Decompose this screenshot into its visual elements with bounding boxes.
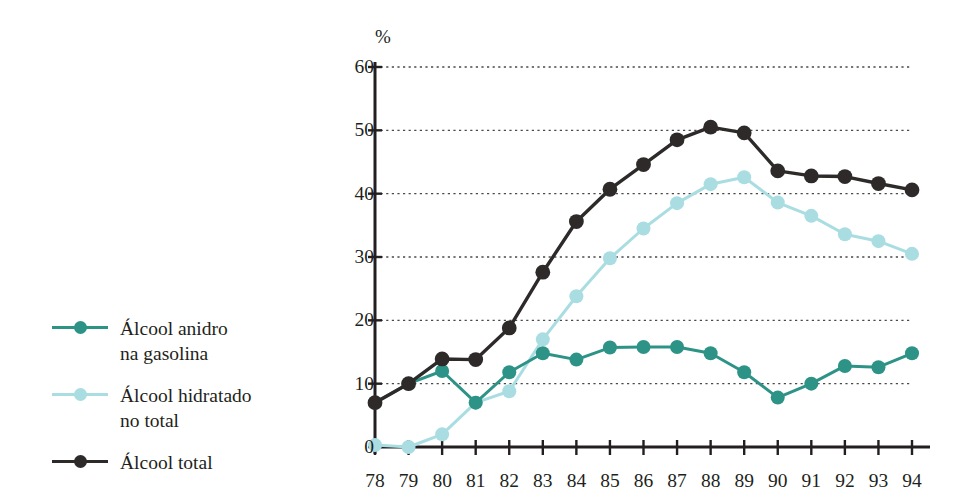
- x-axis-tick-label: 78: [365, 470, 385, 492]
- data-point: [838, 227, 852, 241]
- x-axis-tick-label: 93: [869, 470, 889, 492]
- data-point: [401, 376, 416, 391]
- data-point: [871, 234, 885, 248]
- data-point: [569, 353, 583, 367]
- x-axis-tick-label: 92: [835, 470, 855, 492]
- data-point: [536, 346, 550, 360]
- x-axis-tick-label: 89: [734, 470, 754, 492]
- series-2: [368, 120, 920, 410]
- y-axis-tick-label: 20: [340, 309, 374, 331]
- data-point: [603, 182, 618, 197]
- x-axis-tick-label: 84: [567, 470, 587, 492]
- data-point: [603, 341, 617, 355]
- data-point: [569, 214, 584, 229]
- data-point: [737, 170, 751, 184]
- y-axis-tick-label: 40: [340, 183, 374, 205]
- x-axis-tick-label: 86: [634, 470, 654, 492]
- data-point: [536, 332, 550, 346]
- x-axis-tick-label: 79: [399, 470, 419, 492]
- data-point: [703, 120, 718, 135]
- data-point: [771, 196, 785, 210]
- data-point: [535, 265, 550, 280]
- data-point: [670, 196, 684, 210]
- y-axis-tick-label: 50: [340, 119, 374, 141]
- series-line: [375, 347, 912, 403]
- x-axis-tick-label: 90: [768, 470, 788, 492]
- plot-area: % 6050403020100 787980818283848586878889…: [0, 0, 959, 504]
- data-point: [569, 289, 583, 303]
- data-point: [871, 176, 886, 191]
- data-point: [704, 346, 718, 360]
- data-point: [905, 182, 920, 197]
- data-point: [603, 251, 617, 265]
- data-point: [737, 365, 751, 379]
- y-axis-tick-label: 0: [340, 436, 374, 458]
- data-point: [804, 169, 819, 184]
- data-point: [770, 163, 785, 178]
- data-point: [435, 352, 450, 367]
- data-point: [435, 427, 449, 441]
- data-point: [468, 352, 483, 367]
- data-point: [502, 384, 516, 398]
- y-axis-tick-label: 30: [340, 246, 374, 268]
- series-1: [368, 170, 919, 454]
- data-point: [637, 340, 651, 354]
- data-point: [804, 209, 818, 223]
- y-axis-tick-label: 10: [340, 373, 374, 395]
- x-axis-tick-label: 88: [701, 470, 721, 492]
- x-axis-tick-label: 81: [466, 470, 486, 492]
- x-axis-tick-label: 87: [667, 470, 687, 492]
- series-line: [375, 177, 912, 447]
- data-point: [837, 169, 852, 184]
- line-chart-svg: [0, 0, 959, 504]
- data-point: [771, 391, 785, 405]
- data-point: [670, 340, 684, 354]
- x-axis-tick-label: 83: [533, 470, 553, 492]
- y-axis-tick-label: 60: [340, 56, 374, 78]
- x-axis-tick-label: 80: [432, 470, 452, 492]
- data-point: [804, 377, 818, 391]
- data-point: [402, 440, 416, 454]
- data-point: [502, 321, 517, 336]
- data-point: [469, 396, 483, 410]
- x-axis-tick-label: 85: [600, 470, 620, 492]
- data-point: [502, 365, 516, 379]
- data-point: [905, 346, 919, 360]
- data-point: [637, 222, 651, 236]
- series-0: [368, 340, 919, 410]
- data-point: [737, 125, 752, 140]
- x-axis-tick-label: 94: [902, 470, 922, 492]
- data-point: [871, 360, 885, 374]
- x-axis-tick-label: 82: [500, 470, 520, 492]
- data-point: [368, 395, 383, 410]
- data-point: [704, 177, 718, 191]
- x-axis-tick-label: 91: [802, 470, 822, 492]
- data-point: [905, 247, 919, 261]
- chart-figure: Álcool anidro na gasolinaÁlcool hidratad…: [0, 0, 959, 504]
- data-point: [670, 132, 685, 147]
- data-point: [636, 157, 651, 172]
- data-point: [838, 359, 852, 373]
